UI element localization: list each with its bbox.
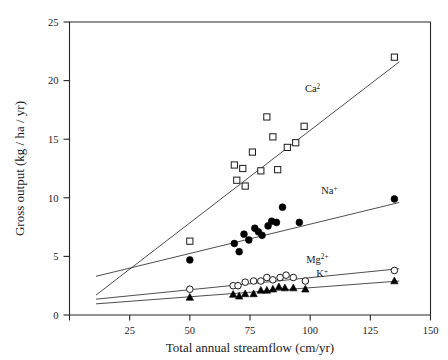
series-label-mg2: Mg2+ — [306, 253, 328, 265]
trend-line-ca2 — [96, 62, 399, 295]
data-point — [234, 177, 240, 183]
axis-tick-labels: 2550751001251500510152025 — [48, 17, 438, 336]
data-point — [275, 283, 282, 290]
data-point — [241, 231, 248, 238]
series-na — [186, 196, 397, 264]
data-point — [250, 278, 257, 285]
scatter-plot: 2550751001251500510152025 Ca2Na+Mg2+K+ T… — [0, 0, 448, 360]
data-point — [231, 162, 237, 168]
data-point — [187, 238, 193, 244]
data-points — [186, 54, 398, 300]
data-point — [242, 183, 248, 189]
data-point — [258, 278, 265, 285]
x-axis-title: Total annual streamflow (cm/yr) — [166, 340, 334, 355]
data-point — [258, 168, 264, 174]
y-tick-label: 10 — [48, 193, 59, 204]
x-tick-label: 50 — [185, 325, 196, 336]
data-point — [391, 277, 398, 284]
y-tick-label: 25 — [48, 17, 59, 28]
data-point — [249, 149, 255, 155]
data-point — [281, 284, 288, 291]
data-point — [242, 279, 249, 286]
data-point — [259, 232, 266, 239]
data-point — [240, 165, 246, 171]
data-point — [391, 196, 398, 203]
series-ca2 — [187, 54, 398, 244]
data-point — [290, 284, 297, 291]
data-point — [250, 290, 257, 297]
data-point — [245, 237, 252, 244]
data-point — [273, 219, 280, 226]
data-point — [270, 134, 276, 140]
x-tick-label: 125 — [362, 325, 378, 336]
x-tick-label: 25 — [124, 325, 135, 336]
data-point — [293, 140, 299, 146]
x-tick-label: 150 — [423, 325, 439, 336]
y-tick-label: 0 — [53, 310, 58, 321]
data-point — [270, 277, 277, 284]
data-point — [231, 240, 238, 247]
chart-figure: 2550751001251500510152025 Ca2Na+Mg2+K+ T… — [0, 0, 448, 360]
data-point — [391, 54, 397, 60]
x-tick-label: 100 — [302, 325, 318, 336]
data-point — [186, 257, 193, 264]
data-point — [283, 272, 290, 279]
data-point — [236, 248, 243, 255]
x-tick-label: 75 — [245, 325, 256, 336]
series-labels: Ca2Na+Mg2+K+ — [305, 83, 338, 280]
data-point — [275, 167, 281, 173]
data-point — [284, 144, 290, 150]
data-point — [290, 274, 297, 281]
data-point — [235, 282, 242, 289]
series-label-k: K+ — [316, 268, 328, 280]
data-point — [302, 278, 309, 285]
axis-titles: Total annual streamflow (cm/yr)Gross out… — [12, 101, 334, 355]
data-point — [301, 123, 307, 129]
series-label-ca2: Ca2 — [305, 83, 321, 95]
data-point — [187, 286, 194, 293]
y-tick-label: 5 — [53, 251, 58, 262]
data-point — [241, 290, 248, 297]
series-label-na: Na+ — [321, 185, 337, 197]
data-point — [264, 114, 270, 120]
y-tick-label: 20 — [48, 75, 59, 86]
data-point — [391, 267, 398, 274]
y-axis-title: Gross output (kg / ha / yr) — [12, 101, 27, 236]
data-point — [296, 219, 303, 226]
y-tick-label: 15 — [48, 134, 59, 145]
axis-ticks — [64, 22, 431, 321]
data-point — [279, 204, 286, 211]
